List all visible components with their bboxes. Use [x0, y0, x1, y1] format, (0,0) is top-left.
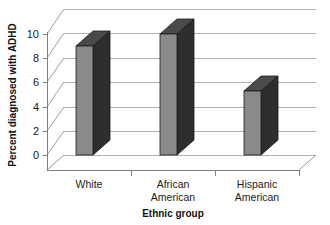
y-tick-label-2: 2 — [33, 125, 39, 137]
bar-hispanic-american — [244, 76, 278, 155]
bar-african-american-side-face — [177, 19, 194, 155]
bar-african-american — [160, 19, 194, 155]
bar-african-american-front-face — [160, 34, 177, 155]
category-label-hispanic-american-line1: Hispanic — [237, 178, 277, 190]
bar-hispanic-american-front-face — [244, 91, 261, 155]
adhd-by-ethnic-group-bar-chart: 10 8 6 4 2 0 White Africa — [0, 0, 330, 225]
chart-container: 10 8 6 4 2 0 White Africa — [0, 0, 330, 225]
category-label-white: White — [76, 178, 103, 190]
y-tick-label-4: 4 — [33, 101, 39, 113]
x-axis-title: Ethnic group — [142, 208, 204, 219]
category-label-hispanic-american-line2: American — [235, 191, 280, 203]
bar-white-side-face — [93, 31, 110, 155]
y-tick-label-10: 10 — [27, 28, 39, 40]
bar-white — [76, 31, 110, 155]
y-tick-label-8: 8 — [33, 52, 39, 64]
category-label-african-american-line1: African — [157, 178, 190, 190]
y-axis-title: Percent diagnosed with ADHD — [7, 23, 18, 167]
bar-white-front-face — [76, 46, 93, 155]
y-tick-label-0: 0 — [33, 149, 39, 161]
y-tick-label-6: 6 — [33, 76, 39, 88]
category-label-african-american-line2: American — [151, 191, 196, 203]
